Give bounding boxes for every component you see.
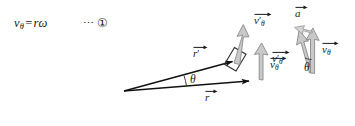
label-v-theta-prime-cluster: v′θ [272,49,283,66]
vector-arrow-icon [193,44,199,49]
label-r: r [205,88,209,103]
v-theta-arrow-at-r-tip [254,43,268,80]
vector-arrow-icon [322,40,331,45]
figure-canvas: vθ=rω ⋯① r′ r [0,0,355,126]
vector-arrow-icon [295,4,301,9]
v-theta-prime-arrow-at-rprime-tip [234,25,249,65]
physics-diagram [0,0,355,126]
equation-number: ① [97,16,108,30]
equation-lhs-subscript: θ [20,21,24,31]
vector-arrow-icon [254,11,265,16]
equation-equals-sign: = [25,16,32,30]
vector-arrow-icon [272,49,283,54]
leader-dots: ⋯ [83,17,95,29]
theta-angle-arc-main [184,76,187,87]
label-v-theta-prime-tip: v′θ [254,11,265,28]
equation-v-theta: vθ=rω [14,17,47,31]
label-a-vector: a [295,4,301,19]
a-vector-arrow [295,26,313,34]
label-theta-main: θ [190,74,196,86]
equation-number-group: ⋯① [83,17,108,29]
equation-rhs: rω [33,16,47,30]
label-r-prime: r′ [193,44,199,59]
vector-arrow-icon [205,88,209,93]
label-v-theta-cluster: vθ [322,40,331,57]
label-theta-cluster: θ [304,62,310,74]
